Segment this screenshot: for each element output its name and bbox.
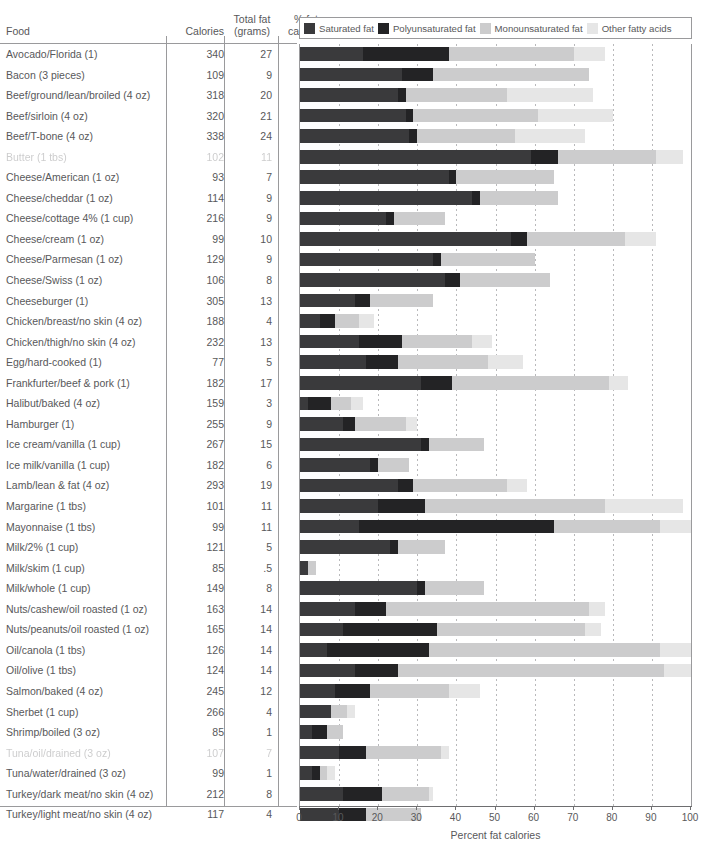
bar-segment-2	[327, 725, 343, 739]
cell-food-name: Cheese/Parmesan (1 oz)	[6, 253, 123, 265]
cell-total-fat: 1	[224, 726, 272, 738]
bar-segment-3	[449, 684, 480, 698]
cell-total-fat: 14	[224, 664, 272, 676]
bar-segment-3	[327, 766, 335, 780]
x-tick-80	[612, 806, 613, 810]
bar-segment-1	[339, 746, 366, 760]
cell-calories: 102	[170, 151, 224, 163]
bar-segment-0	[300, 129, 409, 143]
cell-total-fat: 13	[224, 295, 272, 307]
cell-food-name: Beef/T-bone (4 oz)	[6, 130, 93, 142]
cell-calories: 232	[170, 336, 224, 348]
bar-segment-0	[300, 581, 417, 595]
bar-segment-0	[300, 458, 370, 472]
cell-food-name: Frankfurter/beef & pork (1)	[6, 377, 130, 389]
legend-swatch-icon	[304, 23, 315, 34]
stacked-bar	[300, 191, 558, 205]
cell-calories: 305	[170, 295, 224, 307]
bar-segment-2	[425, 581, 484, 595]
x-tick-label-80: 80	[597, 812, 627, 823]
bar-segment-1	[343, 623, 437, 637]
bar-row	[300, 352, 691, 373]
bar-segment-3	[660, 643, 691, 657]
cell-total-fat: 9	[224, 418, 272, 430]
cell-total-fat: 5	[224, 356, 272, 368]
bar-segment-1	[363, 47, 449, 61]
stacked-bar	[300, 170, 554, 184]
bar-segment-1	[320, 314, 336, 328]
bar-row	[300, 414, 691, 435]
cell-food-name: Halibut/baked (4 oz)	[6, 397, 100, 409]
bar-row	[300, 311, 691, 332]
cell-food-name: Sherbet (1 cup)	[6, 706, 78, 718]
bar-row	[300, 661, 691, 682]
bar-row	[300, 599, 691, 620]
column-header-food: Food	[6, 25, 30, 37]
bar-segment-2	[398, 540, 445, 554]
bar-segment-0	[300, 540, 390, 554]
cell-calories: 338	[170, 130, 224, 142]
x-tick-label-100: 100	[675, 812, 703, 823]
cell-total-fat: 27	[224, 48, 272, 60]
cell-total-fat: 5	[224, 541, 272, 553]
bar-segment-2	[378, 458, 409, 472]
x-tick-20	[377, 806, 378, 810]
stacked-bar	[300, 68, 589, 82]
bar-segment-3	[660, 520, 691, 534]
cell-food-name: Cheese/cottage 4% (1 cup)	[6, 212, 133, 224]
stacked-bar	[300, 458, 409, 472]
legend-swatch-icon	[587, 23, 598, 34]
cell-food-name: Bacon (3 pieces)	[6, 69, 85, 81]
bar-row	[300, 578, 691, 599]
cell-calories: 107	[170, 747, 224, 759]
bar-segment-2	[456, 170, 554, 184]
cell-total-fat: 24	[224, 130, 272, 142]
bar-segment-1	[355, 602, 386, 616]
bar-segment-2	[441, 253, 535, 267]
fat-composition-chart-page: Food Calories Total fat (grams) % fat ca…	[0, 0, 703, 853]
cell-calories: 245	[170, 685, 224, 697]
cell-food-name: Butter (1 tbs)	[6, 151, 67, 163]
cell-total-fat: 3	[224, 397, 272, 409]
cell-food-name: Oil/olive (1 tbs)	[6, 664, 76, 676]
bar-segment-3	[605, 499, 683, 513]
cell-total-fat: 11	[224, 500, 272, 512]
bar-segment-1	[355, 664, 398, 678]
cell-calories: 163	[170, 603, 224, 615]
bar-segment-1	[390, 540, 398, 554]
stacked-bar	[300, 109, 613, 123]
cell-calories: 99	[170, 233, 224, 245]
bar-segment-0	[300, 623, 343, 637]
bar-segment-3	[515, 129, 585, 143]
cell-calories: 99	[170, 521, 224, 533]
bar-segment-0	[300, 170, 449, 184]
cell-total-fat: 13	[224, 336, 272, 348]
bar-segment-0	[300, 376, 421, 390]
stacked-bar	[300, 355, 523, 369]
bar-row	[300, 332, 691, 353]
stacked-bar	[300, 417, 417, 431]
cell-food-name: Milk/skim (1 cup)	[6, 562, 85, 574]
cell-total-fat: 9	[224, 192, 272, 204]
bar-row	[300, 270, 691, 291]
bar-segment-1	[312, 766, 320, 780]
bar-segment-0	[300, 191, 472, 205]
bar-segment-2	[398, 664, 664, 678]
cell-food-name: Shrimp/boiled (3 oz)	[6, 726, 100, 738]
bar-segment-0	[300, 643, 327, 657]
bar-row	[300, 681, 691, 702]
legend-label: Monounsaturated fat	[495, 23, 583, 34]
cell-calories: 124	[170, 664, 224, 676]
bar-segment-1	[417, 581, 425, 595]
cell-total-fat: 8	[224, 582, 272, 594]
stacked-bar	[300, 766, 335, 780]
bar-segment-2	[308, 561, 316, 575]
stacked-bar-plot	[299, 44, 692, 806]
x-tick-label-0: 0	[284, 812, 314, 823]
cell-calories: 182	[170, 459, 224, 471]
x-tick-10	[338, 806, 339, 810]
cell-calories: 293	[170, 479, 224, 491]
bar-segment-1	[421, 376, 452, 390]
bar-segment-0	[300, 602, 355, 616]
cell-food-name: Milk/whole (1 cup)	[6, 582, 91, 594]
